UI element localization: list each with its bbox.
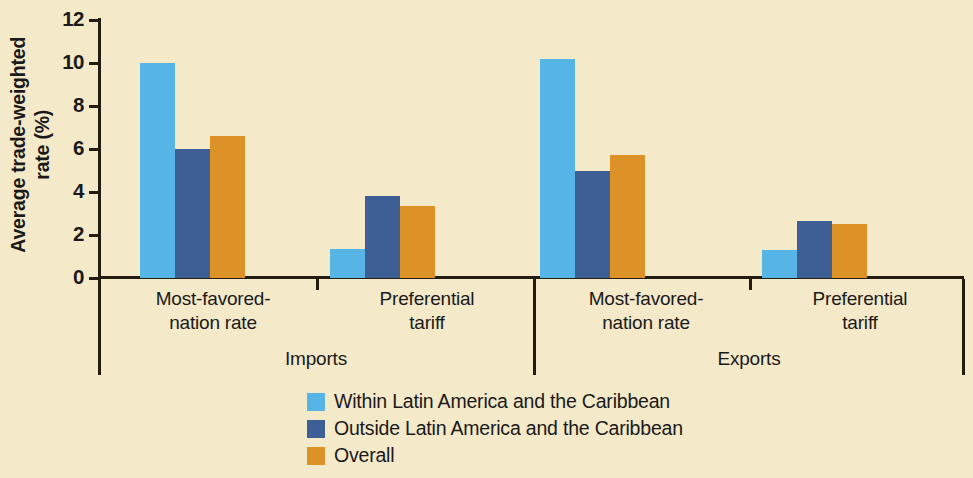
y-tick-label-10: 10 xyxy=(62,50,84,74)
bar-imports-most-favored-nation-rate-within xyxy=(140,63,175,278)
x-group-label-imports-preferential-line1: Preferential xyxy=(380,288,475,309)
y-tick-label-8: 8 xyxy=(73,93,84,117)
x-group-label-imports-preferential-line2: tariff xyxy=(324,311,530,335)
y-axis-title-line1: Average trade-weighted xyxy=(7,37,29,253)
bar-imports-preferential-tariff-within xyxy=(330,249,365,278)
legend-swatch-icon-2 xyxy=(307,447,325,465)
bar-exports-preferential-tariff-within xyxy=(762,250,797,278)
x-group-label-exports-mfn-line2: nation rate xyxy=(541,311,751,335)
bar-exports-most-favored-nation-rate-within xyxy=(540,59,575,278)
x-group-label-imports-mfn-line1: Most-favored- xyxy=(156,288,271,309)
x-group-label-imports-mfn-line2: nation rate xyxy=(108,311,318,335)
x-group-label-exports-mfn: Most-favored- nation rate xyxy=(541,287,751,335)
legend-label-1: Outside Latin America and the Caribbean xyxy=(334,417,683,440)
x-group-label-exports-mfn-line1: Most-favored- xyxy=(589,288,704,309)
y-tick-label-0: 0 xyxy=(73,265,84,289)
x-group-label-exports-preferential: Preferential tariff xyxy=(757,287,963,335)
y-tick-mark-10 xyxy=(89,62,98,65)
bar-imports-most-favored-nation-rate-overall xyxy=(210,136,245,278)
bar-imports-preferential-tariff-overall xyxy=(400,206,435,278)
bar-chart: Average trade-weighted rate (%) 0 2 4 6 … xyxy=(0,0,973,478)
y-tick-mark-12 xyxy=(89,19,98,22)
bar-imports-most-favored-nation-rate-outside xyxy=(175,149,210,278)
y-tick-label-2: 2 xyxy=(73,222,84,246)
legend-item-0: Within Latin America and the Caribbean xyxy=(307,388,683,415)
legend-swatch-icon-1 xyxy=(307,420,325,438)
x-group-label-exports-preferential-line1: Preferential xyxy=(813,288,908,309)
x-group-label-imports-preferential: Preferential tariff xyxy=(324,287,530,335)
y-tick-mark-4 xyxy=(89,191,98,194)
bar-exports-preferential-tariff-outside xyxy=(797,221,832,278)
y-tick-label-12: 12 xyxy=(62,7,84,31)
y-tick-mark-8 xyxy=(89,105,98,108)
y-axis-title-line2: rate (%) xyxy=(31,37,55,253)
y-axis-title: Average trade-weighted rate (%) xyxy=(0,0,62,290)
panel-label-imports: Imports xyxy=(100,348,532,370)
legend-label-2: Overall xyxy=(334,444,394,467)
panel-label-exports: Exports xyxy=(534,348,964,370)
y-tick-mark-2 xyxy=(89,234,98,237)
legend-swatch-icon-0 xyxy=(307,393,325,411)
x-group-label-exports-preferential-line2: tariff xyxy=(757,311,963,335)
plot-area xyxy=(98,20,964,278)
legend-label-0: Within Latin America and the Caribbean xyxy=(334,390,670,413)
legend-item-2: Overall xyxy=(307,442,683,469)
bar-exports-preferential-tariff-overall xyxy=(832,224,867,278)
bar-imports-preferential-tariff-outside xyxy=(365,196,400,278)
y-tick-label-6: 6 xyxy=(73,136,84,160)
bar-exports-most-favored-nation-rate-outside xyxy=(575,171,610,279)
legend-item-1: Outside Latin America and the Caribbean xyxy=(307,415,683,442)
y-tick-label-4: 4 xyxy=(73,179,84,203)
x-group-label-imports-mfn: Most-favored- nation rate xyxy=(108,287,318,335)
y-tick-mark-0 xyxy=(89,277,98,280)
y-tick-mark-6 xyxy=(89,148,98,151)
bar-exports-most-favored-nation-rate-overall xyxy=(610,155,645,278)
legend: Within Latin America and the CaribbeanOu… xyxy=(307,388,683,469)
